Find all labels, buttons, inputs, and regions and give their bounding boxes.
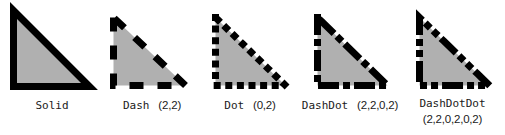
line-style-figure: Solid Dash (2,2) Dot (0,2)	[0, 0, 505, 135]
style-pattern-dashdotdot: (2,2,0,2,0,2)	[400, 112, 505, 127]
line-style-sample-solid: Solid	[0, 0, 104, 135]
style-pattern-dash: (2,2)	[158, 99, 181, 111]
line-style-sample-dashdotdot: DashDotDot(2,2,0,2,0,2)	[400, 0, 505, 135]
triangle-glyph-dot	[200, 0, 300, 96]
dashdot-triangle-svg	[300, 0, 400, 96]
caption-dot: Dot (0,2)	[200, 96, 300, 113]
style-name-dot: Dot	[224, 99, 244, 112]
triangle-glyph-dash	[104, 0, 200, 96]
style-name-solid: Solid	[35, 99, 68, 112]
caption-dashdotdot: DashDotDot(2,2,0,2,0,2)	[400, 96, 505, 127]
triangle-glyph-dashdot	[300, 0, 400, 96]
line-style-sample-dot: Dot (0,2)	[200, 0, 300, 135]
dash-triangle-svg	[104, 0, 200, 96]
triangle-glyph-dashdotdot	[400, 0, 505, 96]
line-style-sample-dashdot: DashDot (2,2,0,2)	[300, 0, 400, 135]
caption-solid: Solid	[0, 96, 104, 113]
style-name-dashdotdot: DashDotDot	[400, 96, 505, 111]
style-pattern-dashdot: (2,2,0,2)	[357, 99, 398, 111]
caption-dash: Dash (2,2)	[104, 96, 200, 113]
dashdotdot-triangle-svg	[400, 0, 505, 96]
triangle-glyph-solid	[0, 0, 104, 96]
style-name-dashdot: DashDot	[302, 99, 348, 112]
dot-triangle-svg	[200, 0, 300, 96]
line-style-sample-dash: Dash (2,2)	[104, 0, 200, 135]
style-pattern-dot: (0,2)	[253, 99, 276, 111]
style-name-dash: Dash	[123, 99, 150, 112]
caption-dashdot: DashDot (2,2,0,2)	[300, 96, 400, 113]
solid-triangle-svg	[0, 0, 104, 96]
